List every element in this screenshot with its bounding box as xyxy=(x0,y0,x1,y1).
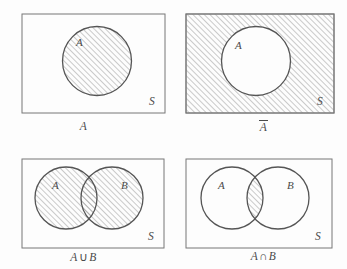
caption-intersect-right: B xyxy=(269,250,276,262)
label-set-a: A xyxy=(217,179,225,191)
label-universe-s: S xyxy=(148,230,154,242)
label-universe-s: S xyxy=(315,230,321,242)
label-universe-s: S xyxy=(149,95,155,107)
caption-set-a: A xyxy=(0,120,167,132)
panel-set-a: A S xyxy=(21,13,166,114)
caption-complement-a-text: A xyxy=(260,120,267,133)
circle-a-shaded xyxy=(63,27,132,96)
label-set-b: B xyxy=(287,179,294,191)
label-universe-s: S xyxy=(317,95,323,107)
label-set-a: A xyxy=(51,179,59,191)
union-operator-symbol: ∪ xyxy=(78,251,89,263)
panel-complement-a: A S xyxy=(185,13,335,114)
label-set-a: A xyxy=(75,36,83,48)
panel-a-union-b-svg: A B S xyxy=(21,158,165,249)
panel-a-union-b: A B S xyxy=(21,158,165,249)
panel-a-intersect-b: A B S xyxy=(185,158,333,249)
caption-a-intersect-b: A∩B xyxy=(180,250,347,262)
intersection-operator-symbol: ∩ xyxy=(258,250,269,262)
circle-a-unshaded xyxy=(222,27,291,96)
venn-diagram-figure: A S A A S A xyxy=(0,0,347,269)
caption-union-left: A xyxy=(70,251,77,263)
label-set-b: B xyxy=(121,179,128,191)
caption-complement-a: A xyxy=(180,120,347,133)
caption-union-right: B xyxy=(89,251,96,263)
panel-a-intersect-b-svg: A B S xyxy=(185,158,333,249)
panel-complement-a-svg: A S xyxy=(185,13,335,114)
panel-set-a-svg: A S xyxy=(21,13,166,114)
caption-a-union-b: A∪B xyxy=(0,250,167,264)
caption-set-a-text: A xyxy=(80,120,87,132)
label-set-a: A xyxy=(234,39,242,51)
